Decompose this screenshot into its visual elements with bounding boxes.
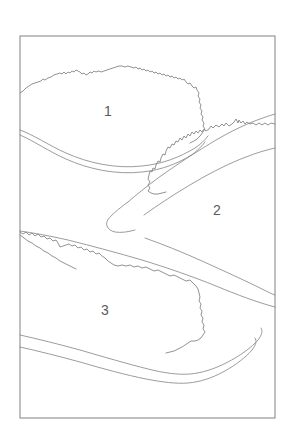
figure-background (0, 0, 296, 442)
region-3-label: 3 (101, 302, 109, 318)
region-1-label: 1 (104, 103, 112, 119)
region-2-label: 2 (213, 202, 221, 218)
figure-root: 1 2 3 (0, 0, 296, 442)
line-drawing-diagram: 1 2 3 (0, 0, 296, 442)
